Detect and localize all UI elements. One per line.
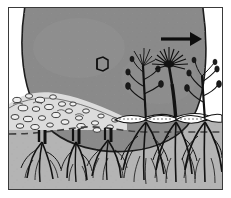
figure-container (0, 0, 231, 198)
scene (9, 8, 222, 189)
scene-svg (9, 8, 222, 189)
illustration-frame (8, 7, 223, 190)
